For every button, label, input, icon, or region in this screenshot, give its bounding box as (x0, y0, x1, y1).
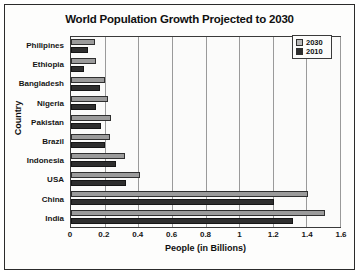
bar-2010-bangladesh (71, 85, 100, 91)
legend-label: 2010 (306, 48, 323, 56)
bar-2030-indonesia (71, 153, 125, 159)
y-axis-tick-labels: Philipines Ethiopia Bangladesh Nigeria P… (5, 36, 68, 228)
x-axis-tick-labels: 00.20.40.60.811.21.41.6 (70, 230, 341, 242)
bar-2010-nigeria (71, 104, 96, 110)
bar-rows (71, 37, 340, 227)
bar-2030-ethiopia (71, 58, 96, 64)
bar-2030-usa (71, 172, 140, 178)
y-axis-tick-label: Ethiopia (5, 55, 68, 74)
bar-2030-india (71, 210, 325, 216)
x-axis-tick-label: 1.6 (335, 230, 346, 239)
bar-group (71, 151, 340, 170)
bar-2030-bangladesh (71, 77, 105, 83)
bar-2030-pakistan (71, 115, 111, 121)
x-axis-tick-label: 0.6 (166, 230, 177, 239)
bar-2010-india (71, 218, 293, 224)
bar-2010-brazil (71, 142, 105, 148)
y-axis-tick-label: Indonesia (5, 151, 68, 170)
y-axis-tick-label: Pakistan (5, 113, 68, 132)
legend-label: 2030 (306, 39, 323, 47)
bar-group (71, 113, 340, 132)
bar-group (71, 94, 340, 113)
y-axis-tick-label: Nigeria (5, 94, 68, 113)
x-axis-tick-label: 0.8 (200, 230, 211, 239)
x-axis-tick-label: 1.2 (268, 230, 279, 239)
x-axis-tick-label: 1.4 (302, 230, 313, 239)
bar-2030-nigeria (71, 96, 108, 102)
legend-swatch-icon (296, 39, 303, 46)
chart-figure: World Population Growth Projected to 203… (4, 4, 355, 270)
gridline (340, 37, 341, 227)
bar-2010-usa (71, 180, 126, 186)
y-axis-tick-label: Philipines (5, 36, 68, 55)
bar-group (71, 170, 340, 189)
plot-area (70, 36, 341, 228)
bar-group (71, 208, 340, 227)
page-title: World Population Growth Projected to 203… (5, 13, 354, 25)
bar-2030-china (71, 191, 308, 197)
legend-swatch-icon (296, 48, 303, 55)
bar-2030-brazil (71, 134, 110, 140)
bar-2010-indonesia (71, 161, 116, 167)
bar-group (71, 132, 340, 151)
y-axis-tick-label: Bangladesh (5, 74, 68, 93)
x-axis-title: People (in Billions) (70, 243, 341, 253)
bar-group (71, 75, 340, 94)
x-axis-tick-label: 0 (68, 230, 72, 239)
y-axis-tick-label: Brazil (5, 132, 68, 151)
legend-item-2010: 2010 (296, 48, 328, 56)
y-axis-tick-label: India (5, 209, 68, 228)
bar-group (71, 189, 340, 208)
bar-2030-philipines (71, 39, 95, 45)
legend: 2030 2010 (292, 35, 332, 59)
y-axis-tick-label: China (5, 190, 68, 209)
x-axis-tick-label: 0.4 (132, 230, 143, 239)
x-axis-tick-label: 0.2 (98, 230, 109, 239)
legend-item-2030: 2030 (296, 39, 328, 47)
bar-2010-pakistan (71, 123, 101, 129)
bar-2010-china (71, 199, 274, 205)
y-axis-tick-label: USA (5, 170, 68, 189)
bar-2010-ethiopia (71, 66, 84, 72)
x-axis-tick-label: 1 (237, 230, 241, 239)
bar-2010-philipines (71, 47, 88, 53)
